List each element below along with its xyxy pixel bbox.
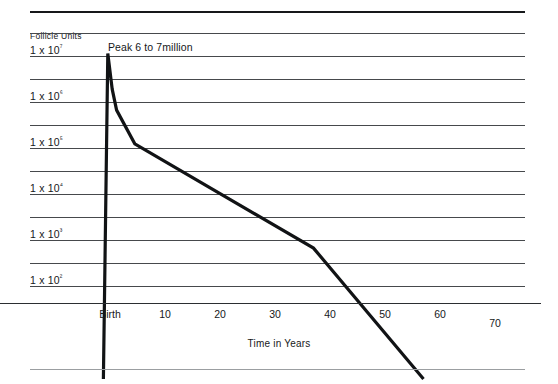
x-axis-tick-label: Birth	[99, 308, 121, 320]
follicle-decline-curve	[0, 0, 558, 384]
x-axis-tick-label: 50	[379, 308, 391, 320]
x-axis-tick-label: 70	[489, 317, 501, 329]
peak-annotation: Peak 6 to 7million	[108, 41, 193, 53]
x-axis-tick-label: 30	[269, 308, 281, 320]
x-axis-line	[0, 303, 541, 304]
chart-figure: Follicle Units 1 x 10⁷1 x 10⁶1 x 10⁵1 x …	[0, 0, 558, 384]
x-axis-tick-label: 60	[434, 308, 446, 320]
x-axis-title: Time in Years	[0, 338, 558, 349]
x-axis-tick-label: 10	[159, 308, 171, 320]
x-axis-tick-label: 40	[324, 308, 336, 320]
bottom-divider-rule	[30, 369, 525, 370]
x-axis-tick-label: 20	[214, 308, 226, 320]
